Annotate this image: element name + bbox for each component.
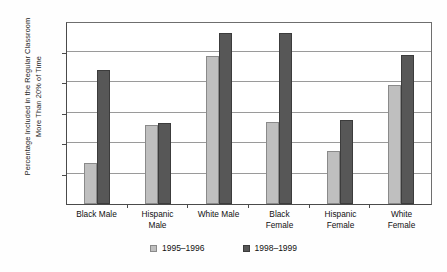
y-tick-mark-4 — [62, 144, 66, 145]
legend-item-1998–1999[interactable]: 1998–1999 — [243, 243, 298, 253]
x-tick-label-line: Black Male — [66, 209, 127, 220]
x-tick-label-line: White — [371, 209, 432, 220]
x-tick-label-line: Female — [249, 220, 310, 231]
bar-black-female-1998–1999 — [279, 33, 292, 204]
bar-hispanic-male-1995–1996 — [145, 125, 158, 204]
legend-item-1995–1996[interactable]: 1995–1996 — [150, 243, 205, 253]
x-axis-tick-labels: Black MaleHispanicMaleWhite MaleBlackFem… — [66, 209, 432, 230]
bar-white-male-1998–1999 — [219, 33, 232, 204]
bar-group-white-female — [370, 23, 431, 204]
bar-white-female-1995–1996 — [388, 85, 401, 204]
legend-label-1995–1996: 1995–1996 — [162, 243, 205, 253]
x-tick-mark-4 — [369, 204, 370, 208]
bar-white-male-1995–1996 — [206, 56, 219, 204]
bar-hispanic-male-1998–1999 — [158, 123, 171, 204]
bar-black-female-1995–1996 — [266, 122, 279, 204]
bar-group-black-male — [67, 23, 128, 204]
bar-group-hispanic-male — [128, 23, 189, 204]
y-tick-mark-10 — [62, 53, 66, 54]
x-tick-label-line: Hispanic — [310, 209, 371, 220]
y-tick-mark-6 — [62, 114, 66, 115]
x-tick-label-line: Male — [127, 220, 188, 231]
x-tick-mark-3 — [309, 204, 310, 208]
x-tick-label-line: White Male — [188, 209, 249, 220]
bar-group-hispanic-female — [310, 23, 371, 204]
x-tick-label-black-female: BlackFemale — [249, 209, 310, 230]
x-tick-mark-1 — [187, 204, 188, 208]
x-tick-label-hispanic-male: HispanicMale — [127, 209, 188, 230]
y-axis-title-line-2: More Than 20% of Time — [33, 56, 42, 137]
y-tick-mark-2 — [62, 175, 66, 176]
y-axis-title-line-1: Percentage Included in the Regular Class… — [23, 18, 32, 176]
x-tick-label-line: Female — [310, 220, 371, 231]
y-axis-title-container: Percentage Included in the Regular Class… — [0, 0, 46, 215]
legend-swatch-icon-1995–1996 — [150, 245, 157, 252]
y-axis-title: Percentage Included in the Regular Class… — [23, 2, 44, 192]
bar-group-white-male — [188, 23, 249, 204]
x-tick-label-white-male: White Male — [188, 209, 249, 230]
bar-groups — [67, 23, 431, 204]
bar-black-male-1998–1999 — [97, 70, 110, 204]
x-tick-label-line: Female — [371, 220, 432, 231]
y-tick-mark-8 — [62, 83, 66, 84]
x-tick-label-black-male: Black Male — [66, 209, 127, 230]
plot-area — [66, 22, 432, 205]
legend-label-1998–1999: 1998–1999 — [255, 243, 298, 253]
bar-hispanic-female-1998–1999 — [340, 120, 353, 204]
bar-group-black-female — [249, 23, 310, 204]
x-tick-mark-0 — [127, 204, 128, 208]
bar-white-female-1998–1999 — [401, 55, 414, 204]
bar-chart-figure: Percentage Included in the Regular Class… — [0, 0, 447, 272]
bar-black-male-1995–1996 — [84, 163, 97, 204]
legend-swatch-icon-1998–1999 — [243, 245, 250, 252]
x-tick-label-hispanic-female: HispanicFemale — [310, 209, 371, 230]
x-tick-label-line: Hispanic — [127, 209, 188, 220]
bar-hispanic-female-1995–1996 — [327, 151, 340, 204]
x-tick-label-line: Black — [249, 209, 310, 220]
chart-legend: 1995–19961998–1999 — [0, 243, 447, 253]
x-tick-label-white-female: WhiteFemale — [371, 209, 432, 230]
x-tick-mark-2 — [248, 204, 249, 208]
